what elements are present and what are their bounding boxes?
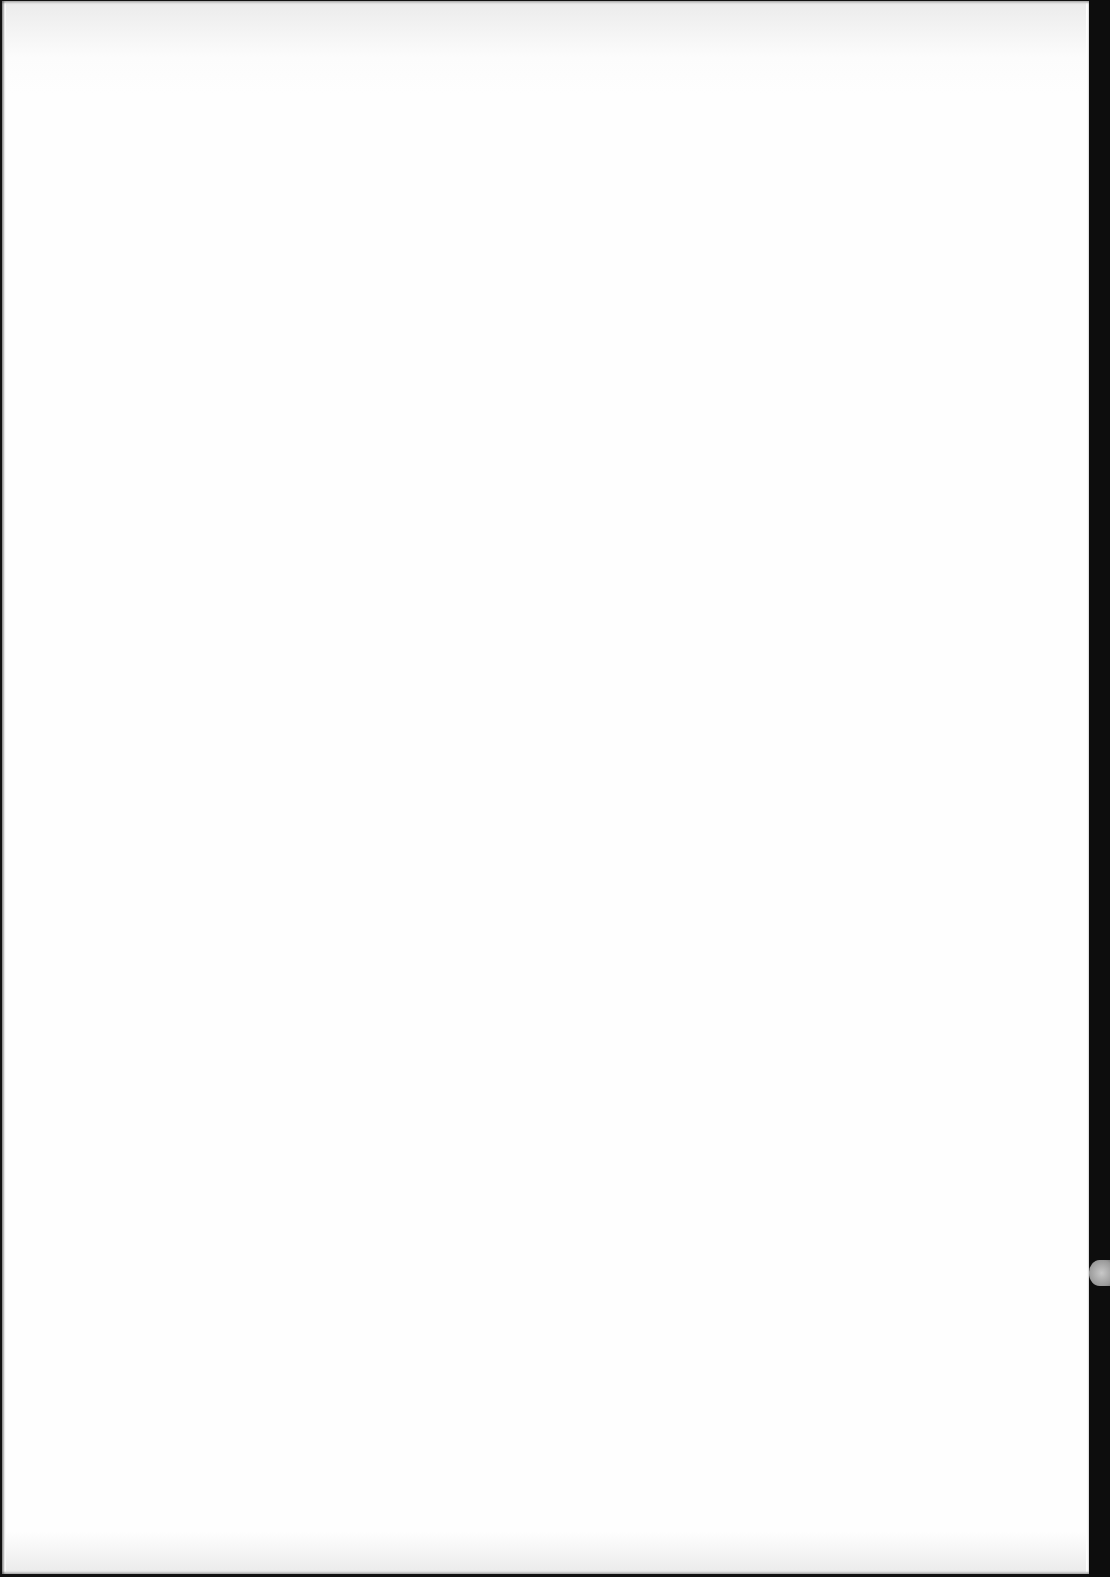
show-through-top xyxy=(6,3,1086,93)
blank-page xyxy=(2,1,1089,1574)
punch-hole-artifact xyxy=(1089,1260,1110,1286)
scanner-edge xyxy=(1089,0,1110,1577)
scan-background xyxy=(0,0,1110,1577)
show-through-bottom xyxy=(6,1532,1086,1572)
